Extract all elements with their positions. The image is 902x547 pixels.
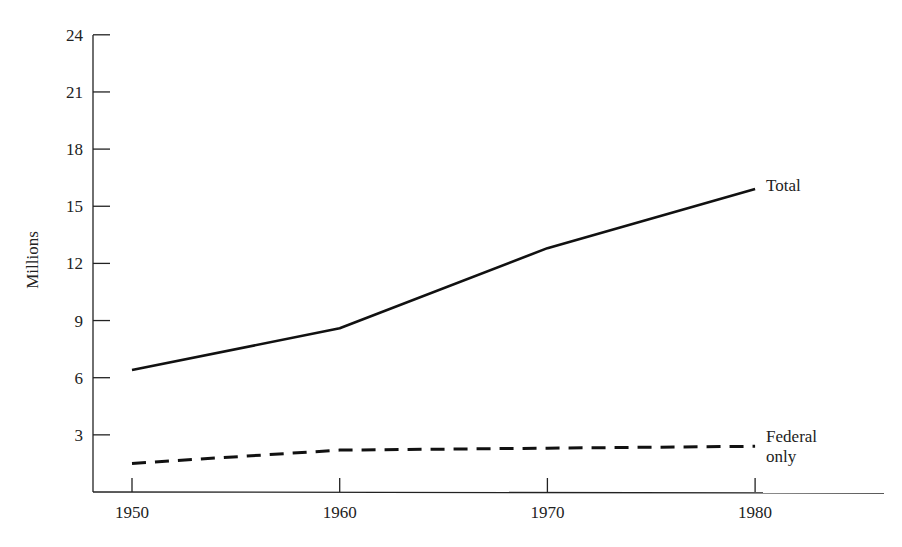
x-axis <box>93 492 884 493</box>
y-tick-label: 24 <box>66 26 84 45</box>
y-tick-label: 12 <box>66 254 83 273</box>
chart-container: 3691215182124 1950196019701980 Millions … <box>0 0 902 547</box>
x-tick-label: 1960 <box>323 503 357 522</box>
y-tick-label: 18 <box>66 140 83 159</box>
y-tick-label: 21 <box>66 83 83 102</box>
y-tick-label: 9 <box>75 312 84 331</box>
y-tick-label: 3 <box>75 426 84 445</box>
x-tick-label: 1970 <box>530 503 564 522</box>
y-ticks: 3691215182124 <box>66 26 110 445</box>
axes <box>93 35 884 493</box>
total-line <box>132 189 755 370</box>
y-tick-label: 15 <box>66 197 83 216</box>
x-ticks: 1950196019701980 <box>115 478 772 522</box>
x-tick-label: 1950 <box>115 503 149 522</box>
series-label-federal-only: Federal <box>766 427 817 446</box>
x-tick-label: 1980 <box>738 503 772 522</box>
line-chart: 3691215182124 1950196019701980 Millions … <box>0 0 902 547</box>
federal-only-line <box>132 446 755 463</box>
y-tick-label: 6 <box>75 369 84 388</box>
series-label-federal-only: only <box>766 447 797 466</box>
series-group <box>132 189 755 463</box>
series-label-total: Total <box>766 176 801 195</box>
series-labels: TotalFederalonly <box>766 176 817 466</box>
y-axis-label: Millions <box>23 231 42 289</box>
